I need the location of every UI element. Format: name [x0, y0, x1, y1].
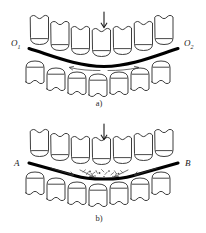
- tooth-upper: [114, 136, 132, 163]
- tooth-upper: [93, 137, 111, 164]
- tooth-lower: [131, 178, 149, 201]
- tooth-upper: [135, 133, 153, 160]
- tooth-lower: [110, 182, 128, 205]
- tooth-lower: [110, 72, 128, 95]
- tooth-upper: [31, 15, 49, 44]
- label-b-point: B: [185, 158, 191, 168]
- tooth-lower: [47, 178, 65, 201]
- tooth-upper: [72, 26, 90, 54]
- tooth-upper: [114, 26, 132, 54]
- tooth-lower: [26, 172, 44, 195]
- tooth-lower: [68, 72, 86, 95]
- tooth-upper: [155, 129, 173, 156]
- tooth-lower: [152, 172, 170, 195]
- tooth-lower: [152, 61, 170, 84]
- tooth-lower: [47, 68, 65, 91]
- figure-diagram: O1 O2 a): [0, 0, 206, 233]
- tooth-upper: [155, 15, 173, 44]
- tooth-upper: [135, 21, 153, 50]
- tooth-lower: [68, 182, 86, 205]
- tooth-upper: [93, 28, 111, 56]
- label-a-point: A: [13, 158, 20, 168]
- tooth-lower: [89, 74, 107, 97]
- tooth-lower: [89, 184, 107, 207]
- tooth-lower: [131, 68, 149, 91]
- caption-b: b): [95, 213, 102, 223]
- tooth-upper: [51, 133, 69, 160]
- tooth-lower: [26, 61, 44, 84]
- tooth-upper: [51, 21, 69, 50]
- caption-a: a): [96, 98, 103, 108]
- tooth-upper: [31, 129, 49, 156]
- tooth-upper: [72, 136, 90, 163]
